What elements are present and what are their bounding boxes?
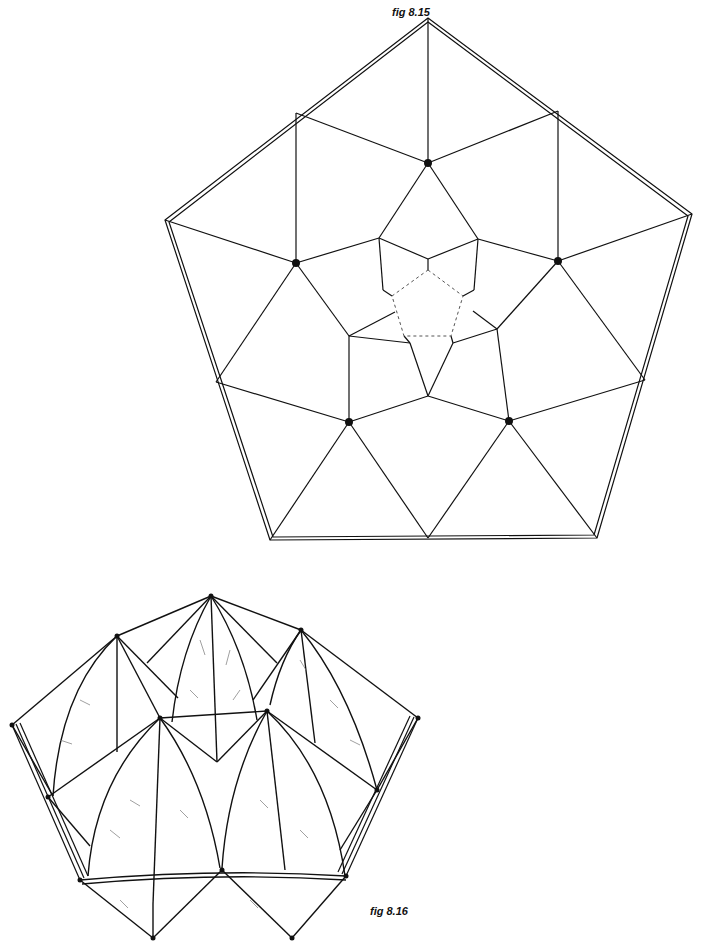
hatching — [60, 640, 360, 908]
figure-8-16-diagram — [0, 0, 706, 946]
